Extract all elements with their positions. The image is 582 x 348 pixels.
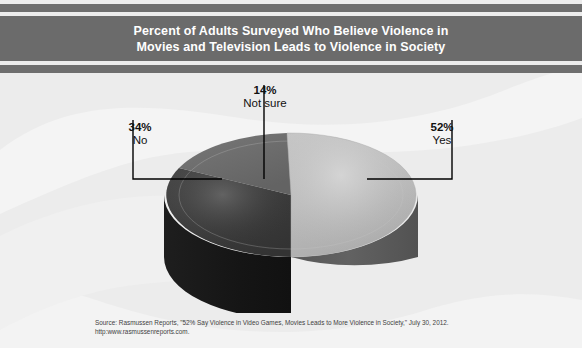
callout-not-sure: 14% Not sure [205, 84, 325, 110]
page-title: Percent of Adults Surveyed Who Believe V… [134, 23, 449, 55]
callout-yes-label: Yes [392, 134, 492, 147]
source-line-1: Source: Rasmussen Reports, "52% Say Viol… [95, 318, 545, 327]
callout-no-percent: 34% [90, 121, 190, 134]
callout-no: 34% No [90, 121, 190, 147]
chart-page: Percent of Adults Surveyed Who Believe V… [0, 0, 582, 348]
callout-not-sure-percent: 14% [205, 84, 325, 97]
callout-not-sure-label: Not sure [205, 97, 325, 110]
title-rule-bottom [0, 65, 582, 73]
chart-title-band: Percent of Adults Surveyed Who Believe V… [0, 16, 582, 61]
title-rule-top [0, 4, 582, 12]
callout-no-label: No [90, 134, 190, 147]
callout-yes-percent: 52% [392, 121, 492, 134]
callout-yes: 52% Yes [392, 121, 492, 147]
source-line-2: http:www.rasmussenreports.com. [95, 327, 545, 336]
source-note: Source: Rasmussen Reports, "52% Say Viol… [95, 318, 545, 336]
